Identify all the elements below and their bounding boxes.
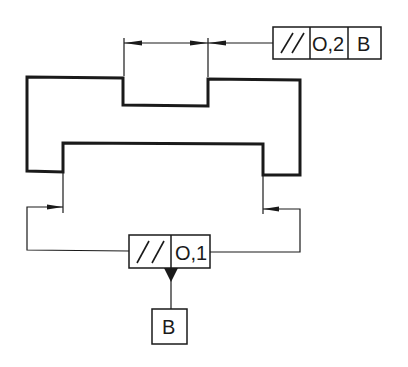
bottom-tolerance-value: O,1 bbox=[175, 242, 207, 264]
arrowhead-icon bbox=[263, 207, 279, 212]
top-datum-reference: B bbox=[357, 33, 370, 55]
bottom-leader-left bbox=[27, 207, 129, 251]
arrowhead-icon bbox=[208, 41, 226, 46]
arrowhead-icon bbox=[47, 205, 63, 210]
bottom-feature-control-frame: O,1 bbox=[129, 235, 210, 268]
gdt-drawing: O,2 B O,1 B bbox=[0, 0, 408, 367]
arrowhead-icon bbox=[124, 41, 142, 46]
top-feature-control-frame: O,2 B bbox=[273, 27, 381, 59]
part-outline bbox=[27, 77, 300, 175]
datum-label: B bbox=[162, 316, 175, 338]
datum-triangle-icon bbox=[164, 268, 178, 282]
datum-feature-box: B bbox=[152, 309, 187, 344]
top-tolerance-value: O,2 bbox=[312, 33, 344, 55]
bottom-leader-right bbox=[210, 209, 300, 252]
arrowhead-icon bbox=[190, 41, 208, 46]
